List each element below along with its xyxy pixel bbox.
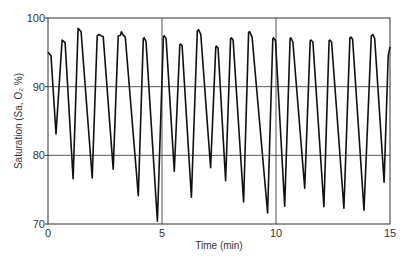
y-tick-label: 100 (27, 12, 45, 24)
y-tick-label: 80 (33, 149, 45, 161)
y-tick-label: 70 (33, 218, 45, 230)
plot-frame (48, 18, 390, 224)
gridlines (48, 18, 390, 224)
x-axis-ticks: 051015 (45, 227, 396, 239)
saturation-chart: 708090100 051015 Time (min) Saturation (… (0, 0, 407, 265)
x-tick-label: 15 (384, 227, 396, 239)
y-axis-ticks: 708090100 (27, 12, 48, 230)
x-tick-label: 0 (45, 227, 51, 239)
saturation-line (48, 28, 390, 221)
x-axis-title: Time (min) (195, 240, 242, 251)
x-tick-label: 10 (270, 227, 282, 239)
x-tick-label: 5 (159, 227, 165, 239)
y-tick-label: 90 (33, 81, 45, 93)
y-axis-title: Saturation (Sa, O₂ %) (13, 73, 24, 169)
